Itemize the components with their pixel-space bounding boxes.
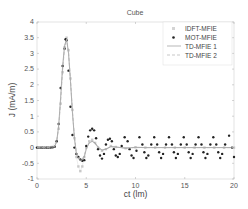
data-point <box>168 136 170 138</box>
data-point <box>95 137 97 139</box>
data-point <box>187 151 189 153</box>
x-tick-label: 10 <box>132 182 140 189</box>
x-tick-label: 5 <box>84 182 88 189</box>
y-tick-label: 4 <box>30 18 34 25</box>
y-tick-label: 0 <box>30 144 34 151</box>
legend-label: MOT-MFIE <box>185 34 217 41</box>
data-point <box>209 143 211 145</box>
data-point <box>145 157 147 159</box>
data-point <box>99 154 101 156</box>
data-point <box>153 136 155 138</box>
data-point <box>91 139 93 141</box>
data-point <box>224 143 226 145</box>
light-square-marker-icon <box>172 27 175 30</box>
data-point <box>175 157 177 159</box>
data-point <box>197 136 199 138</box>
data-point <box>87 135 89 137</box>
data-point <box>221 153 223 155</box>
data-point <box>126 140 128 142</box>
y-tick-label: 2 <box>30 81 34 88</box>
data-point <box>109 138 111 140</box>
data-point <box>200 143 202 145</box>
data-point <box>194 143 196 145</box>
data-point <box>81 165 83 167</box>
data-point <box>158 151 160 153</box>
data-point <box>121 145 123 147</box>
data-point <box>171 143 173 145</box>
y-tick-label: 1.5 <box>24 97 34 104</box>
data-point <box>156 143 158 145</box>
chart-figure: Cube 05101520 -1-0.500.511.522.533.54 ct… <box>0 0 248 209</box>
y-axis-label: J (mA/m) <box>7 83 17 118</box>
data-point <box>123 136 125 138</box>
data-point <box>79 170 81 172</box>
data-point <box>217 151 219 153</box>
data-point <box>173 151 175 153</box>
data-point <box>93 129 95 131</box>
data-point <box>212 136 214 138</box>
data-point <box>204 157 206 159</box>
data-point <box>132 157 134 159</box>
data-point <box>215 143 217 145</box>
chart-title: Cube <box>127 9 144 16</box>
y-tick-label: 3.5 <box>24 34 34 41</box>
data-point <box>219 157 221 159</box>
data-point <box>71 134 73 136</box>
data-point <box>186 143 188 145</box>
data-point <box>165 143 167 145</box>
data-point <box>143 151 145 153</box>
chart-canvas: Cube 05101520 -1-0.500.511.522.533.54 ct… <box>0 0 248 209</box>
data-point <box>91 128 93 130</box>
data-point <box>69 106 71 108</box>
data-point <box>177 153 179 155</box>
black-dot-marker-icon <box>172 36 175 39</box>
y-tick-label: 1 <box>30 113 34 120</box>
data-point <box>162 153 164 155</box>
data-point <box>83 159 85 161</box>
data-point <box>103 153 105 155</box>
x-tick-label: 20 <box>230 182 238 189</box>
data-point <box>77 165 79 167</box>
data-point <box>202 151 204 153</box>
y-tick-label: -0.5 <box>22 160 34 167</box>
data-point <box>141 143 143 145</box>
legend-label: TD-MFIE 1 <box>185 43 217 50</box>
data-point <box>115 154 117 156</box>
x-tick-label: 0 <box>35 182 39 189</box>
data-point <box>111 140 113 142</box>
data-point <box>233 156 235 158</box>
data-point <box>117 156 119 158</box>
data-point <box>191 153 193 155</box>
data-point <box>228 134 230 136</box>
data-point <box>101 157 103 159</box>
legend-label: IDFT-MFIE <box>185 25 217 32</box>
data-point <box>160 157 162 159</box>
data-point <box>180 143 182 145</box>
data-point <box>189 157 191 159</box>
data-point <box>130 154 132 156</box>
data-point <box>135 150 137 152</box>
data-point <box>150 143 152 145</box>
data-point <box>206 153 208 155</box>
legend: IDFT-MFIE MOT-MFIE TD-MFIE 1 TD-MFIE 2 <box>163 22 232 65</box>
data-point <box>147 154 149 156</box>
data-point <box>183 136 185 138</box>
data-point <box>119 153 121 155</box>
data-point <box>138 136 140 138</box>
y-tick-label: 3 <box>30 50 34 57</box>
data-point <box>89 129 91 131</box>
x-tick-label: 15 <box>181 182 189 189</box>
x-axis-label: ct (lm) <box>124 189 148 199</box>
legend-label: TD-MFIE 2 <box>185 52 217 59</box>
data-point <box>113 148 115 150</box>
data-point <box>105 143 107 145</box>
y-tick-label: 2.5 <box>24 65 34 72</box>
y-tick-label: -1 <box>28 175 34 182</box>
y-tick-label: 0.5 <box>24 128 34 135</box>
